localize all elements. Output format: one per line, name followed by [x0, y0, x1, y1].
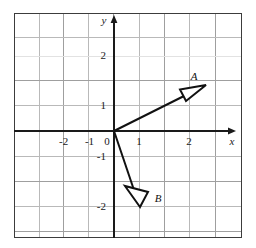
plot-background: [14, 13, 242, 238]
vector-a-label: A: [190, 70, 198, 82]
plot-svg: x y -2 -1 0 1 2 2 1 -1 -2 A B: [0, 0, 256, 248]
y-tick-label-neg1: -1: [97, 150, 106, 162]
x-tick-label-neg1: -1: [85, 135, 94, 147]
x-tick-label-neg2: -2: [59, 135, 68, 147]
x-tick-label-pos2: 2: [186, 135, 192, 147]
x-axis-label: x: [229, 135, 235, 147]
y-axis-label: y: [101, 14, 107, 26]
x-tick-label-pos1: 1: [136, 135, 142, 147]
vector-b-label: B: [155, 192, 162, 204]
origin-label: 0: [104, 135, 110, 147]
y-tick-label-pos1: 1: [101, 99, 107, 111]
y-tick-label-neg2: -2: [97, 200, 106, 212]
coordinate-plane-figure: x y -2 -1 0 1 2 2 1 -1 -2 A B: [0, 0, 256, 248]
y-tick-label-pos2: 2: [101, 49, 107, 61]
